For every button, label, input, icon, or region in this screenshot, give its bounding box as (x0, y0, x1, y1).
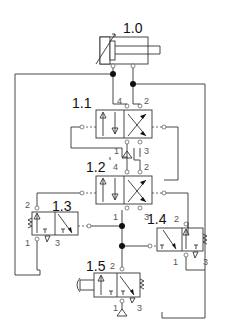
junction-dot (119, 243, 125, 249)
svg-text:1.0: 1.0 (123, 20, 143, 36)
junction-dot (110, 71, 116, 77)
svg-text:1.4: 1.4 (147, 211, 167, 227)
svg-text:3: 3 (55, 238, 60, 248)
svg-text:1: 1 (173, 257, 178, 267)
svg-text:1.1: 1.1 (72, 95, 92, 111)
junction-dot (130, 81, 136, 87)
svg-text:1.2: 1.2 (86, 159, 106, 175)
svg-text:2: 2 (25, 200, 30, 210)
svg-text:1.5: 1.5 (86, 258, 106, 274)
svg-text:2: 2 (110, 261, 115, 271)
valve-1-5: 1.5 2 1 3 (77, 258, 144, 316)
valve-1-3: 1.3 2 1 3 (25, 198, 91, 248)
svg-text:3: 3 (137, 303, 142, 313)
cylinder-1-0: 1.0 (96, 20, 160, 68)
svg-text:4: 4 (113, 162, 118, 172)
svg-text:1: 1 (113, 212, 118, 222)
svg-text:2: 2 (174, 214, 179, 224)
svg-text:1: 1 (114, 146, 119, 156)
svg-text:4: 4 (117, 96, 122, 106)
pneumatic-circuit-diagram: 1.0 1.1 4 2 1 3 (0, 0, 229, 334)
svg-text:3: 3 (203, 257, 208, 267)
svg-text:3: 3 (144, 146, 149, 156)
valve-1-4: 1.4 2 1 3 (147, 211, 208, 267)
svg-text:1: 1 (113, 303, 118, 313)
svg-text:1: 1 (25, 238, 30, 248)
junction-dot (119, 223, 125, 229)
svg-text:2: 2 (144, 162, 149, 172)
svg-text:2: 2 (144, 96, 149, 106)
svg-text:1.3: 1.3 (52, 198, 72, 214)
